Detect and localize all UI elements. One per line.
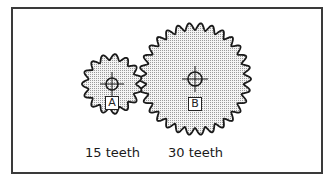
gears-drawing	[0, 0, 329, 181]
gear-a-label: A	[105, 96, 119, 110]
gear-b-label: B	[188, 97, 202, 111]
gear-b-teeth-caption: 30 teeth	[168, 146, 223, 159]
gear-diagram: A B 15 teeth 30 teeth	[0, 0, 329, 181]
gear-a-teeth-caption: 15 teeth	[85, 146, 140, 159]
